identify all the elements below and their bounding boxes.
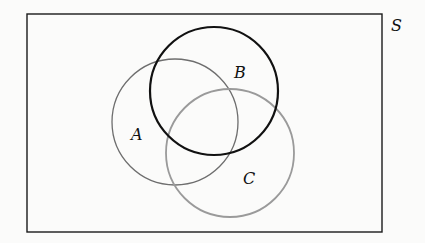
- universe-label: S: [391, 16, 402, 35]
- universe-rectangle: [27, 14, 382, 232]
- venn-diagram: S A B C: [0, 0, 425, 243]
- set-c-label: C: [243, 169, 255, 188]
- set-b-label: B: [233, 63, 246, 82]
- set-a-label: A: [129, 125, 143, 144]
